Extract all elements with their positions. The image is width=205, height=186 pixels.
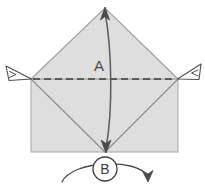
left-corner-pointer [6,66,32,81]
label-a: A [94,57,104,74]
paper-shapes [31,8,178,152]
label-b-badge: B [93,157,117,181]
right-corner-pointer [178,64,202,80]
rectangle-body [31,79,178,152]
rotate-arc-arrowhead [143,171,154,183]
top-triangle [31,8,178,79]
label-b-text: B [100,161,109,177]
right-pointer-outline [178,64,202,80]
left-pointer-outline [6,66,32,81]
origami-figure: A B [0,0,205,186]
origami-diagram: A B [0,0,205,186]
